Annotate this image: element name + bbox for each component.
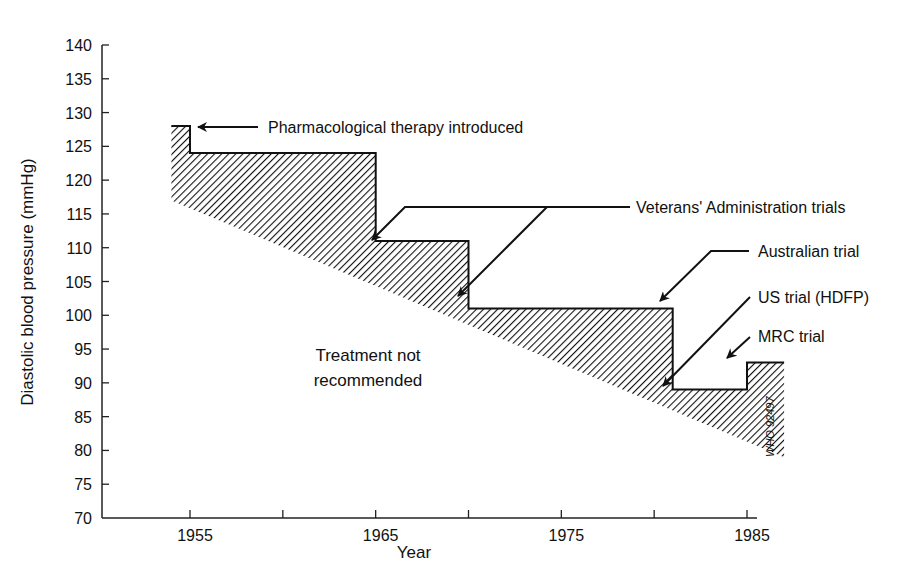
annotation-not-recommended: Treatment not recommended [314,346,423,390]
y-tick-label: 100 [65,307,92,324]
x-tick-label: 1975 [549,527,585,544]
annotation-mrc: MRC trial [727,328,825,358]
hatched-region [171,126,784,457]
chart: 707580859095100105110115120125130135140 … [0,0,917,580]
arrow-us [663,297,750,386]
label-us-trial: US trial (HDFP) [758,289,869,306]
x-tick-label: 1955 [177,527,213,544]
y-tick-label: 85 [74,409,92,426]
label-va-trials: Veterans' Administration trials [636,199,845,216]
y-tick-label: 95 [74,341,92,358]
label-not-recommended-line1: Treatment not [315,346,420,365]
y-tick-label: 140 [65,37,92,54]
hatched-area [171,126,784,457]
y-tick-labels: 707580859095100105110115120125130135140 [65,37,92,527]
y-tick-label: 125 [65,138,92,155]
y-tick-label: 135 [65,71,92,88]
x-tick-label: 1985 [734,527,770,544]
label-australian: Australian trial [758,243,859,260]
label-pharmacological: Pharmacological therapy introduced [268,119,523,136]
who-code: WHO 92497 [764,396,776,457]
y-tick-label: 105 [65,274,92,291]
y-tick-label: 75 [74,476,92,493]
y-tick-label: 115 [66,206,92,223]
label-mrc: MRC trial [758,328,825,345]
y-tick-label: 80 [74,442,92,459]
y-tick-label: 120 [65,172,92,189]
y-tick-label: 110 [66,240,92,257]
x-tick-label: 1965 [363,527,399,544]
x-axis-title: Year [397,543,432,562]
arrow-va-1 [372,207,630,240]
arrow-va-2 [458,207,547,296]
y-axis-title: Diastolic blood pressure (mmHg) [18,158,37,406]
annotation-pharmacological: Pharmacological therapy introduced [198,119,523,136]
y-tick-label: 90 [74,375,92,392]
label-not-recommended-line2: recommended [314,371,423,390]
x-tick-labels: 1955196519751985 [177,527,770,544]
y-tick-label: 130 [65,105,92,122]
arrow-mrc [727,337,750,358]
y-tick-label: 70 [74,510,92,527]
arrow-australian [660,251,749,301]
